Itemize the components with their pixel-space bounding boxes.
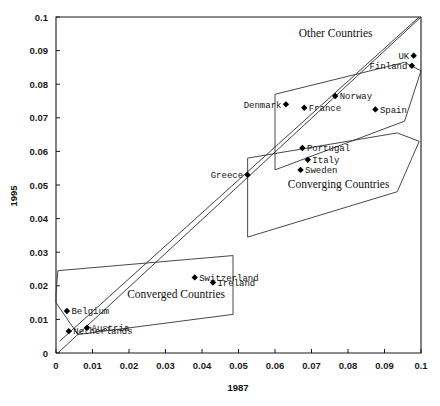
- marker-netherlands: [66, 328, 72, 334]
- x-tick-label: 0.03: [156, 360, 175, 371]
- label-greece: Greece: [211, 171, 243, 181]
- y-tick-label: 0.08: [30, 79, 49, 90]
- region-boxes: [56, 62, 421, 334]
- label-norway: Norway: [340, 92, 373, 102]
- label-uk: UK: [398, 52, 409, 62]
- y-tick-label: 0.02: [30, 280, 49, 291]
- marker-spain: [372, 106, 378, 112]
- label-belgium: Belgium: [71, 307, 109, 317]
- x-tick-label: 0.08: [339, 360, 358, 371]
- x-axis-title: 1987: [227, 382, 248, 393]
- x-tick-label: 0.06: [266, 360, 285, 371]
- marker-sweden: [297, 167, 303, 173]
- label-france: France: [309, 104, 341, 114]
- marker-denmark: [283, 101, 289, 107]
- label-austria: Austria: [92, 324, 130, 334]
- label-spain: Spain: [380, 106, 407, 116]
- marker-france: [301, 105, 307, 111]
- y-tick-label: 0.1: [35, 12, 49, 23]
- y-tick-label: 0.03: [30, 247, 49, 258]
- marker-portugal: [299, 145, 305, 151]
- x-tick-label: 0.07: [302, 360, 321, 371]
- chart-canvas: 00.010.020.030.040.050.060.070.080.090.1…: [0, 0, 440, 406]
- y-tick-label: 0.06: [30, 146, 49, 157]
- x-tick-label: 0.02: [120, 360, 139, 371]
- y-tick-label: 0.04: [30, 213, 49, 224]
- scatter-chart: 00.010.020.030.040.050.060.070.080.090.1…: [0, 0, 440, 406]
- x-tick-label: 0.04: [193, 360, 212, 371]
- other-countries-label: Other Countries: [299, 27, 373, 39]
- label-denmark: Denmark: [244, 101, 282, 111]
- x-axis-tick-labels: 00.010.020.030.040.050.060.070.080.090.1: [53, 360, 428, 371]
- marker-finland: [409, 63, 415, 69]
- x-tick-label: 0.09: [375, 360, 394, 371]
- data-point-labels: BelgiumNetherlandsAustriaSwitzerlandIrel…: [71, 52, 409, 338]
- y-axis-title: 1995: [8, 185, 19, 207]
- y-tick-label: 0.09: [30, 45, 49, 56]
- x-tick-label: 0.05: [229, 360, 248, 371]
- converged-countries-label: Converged Countries: [127, 288, 225, 301]
- y-tick-label: 0.05: [30, 180, 49, 191]
- converging-countries-label: Converging Countries: [288, 178, 390, 191]
- marker-uk: [411, 52, 417, 58]
- y-axis-tick-labels: 00.010.020.030.040.050.060.070.080.090.1: [30, 12, 49, 359]
- label-ireland: Ireland: [217, 279, 255, 289]
- label-italy: Italy: [312, 156, 340, 166]
- label-portugal: Portugal: [307, 144, 350, 154]
- marker-switzerland: [192, 274, 198, 280]
- label-finland: Finland: [370, 62, 408, 72]
- label-sweden: Sweden: [305, 166, 337, 176]
- marker-italy: [305, 157, 311, 163]
- y-tick-label: 0.01: [30, 314, 49, 325]
- x-tick-label: 0: [53, 360, 58, 371]
- marker-belgium: [64, 308, 70, 314]
- region-labels: Converged CountriesConverging CountriesO…: [127, 27, 390, 300]
- x-tick-label: 0.1: [414, 360, 428, 371]
- x-tick-label: 0.01: [83, 360, 102, 371]
- y-tick-label: 0: [43, 348, 48, 359]
- marker-greece: [244, 172, 250, 178]
- y-tick-label: 0.07: [30, 112, 49, 123]
